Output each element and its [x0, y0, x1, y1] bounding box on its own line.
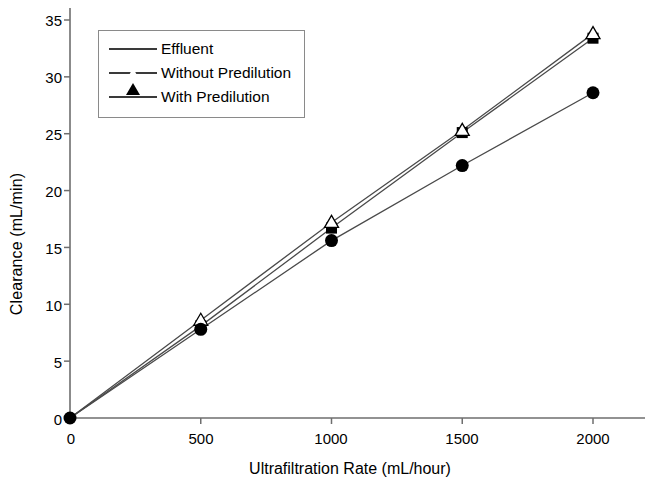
- legend-swatch-triangle: [109, 63, 157, 83]
- legend-label-without-predilution: Without Predilution: [157, 65, 291, 81]
- data-point: [456, 159, 469, 172]
- data-point: [194, 323, 207, 336]
- data-point: [325, 215, 339, 227]
- legend-label-effluent: Effluent: [157, 41, 213, 57]
- legend-rows: Effluent Without Predilution With Predil…: [99, 37, 304, 109]
- data-point: [586, 27, 600, 39]
- data-point: [587, 86, 600, 99]
- data-point: [325, 234, 338, 247]
- legend-label-with-predilution: With Predilution: [157, 89, 270, 105]
- legend: Effluent Without Predilution With Predil…: [98, 30, 305, 118]
- chart-figure: Clearance (mL/min) 35 30 25 20 15 10 5 0…: [0, 0, 647, 488]
- legend-swatch-square: [109, 39, 157, 59]
- legend-item-effluent: Effluent: [99, 37, 304, 61]
- legend-item-without-predilution: Without Predilution: [99, 61, 304, 85]
- series-line-2: [70, 93, 593, 418]
- data-point: [64, 412, 77, 425]
- legend-item-with-predilution: With Predilution: [99, 85, 304, 109]
- legend-swatch-circle: [109, 87, 157, 107]
